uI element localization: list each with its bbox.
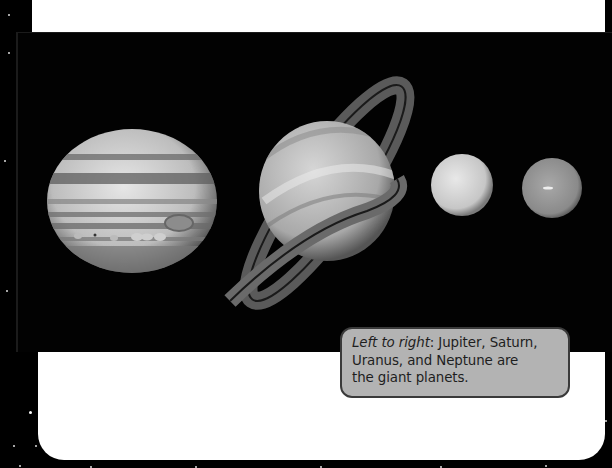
page-card-top bbox=[32, 0, 605, 32]
caption-lead: Left to right bbox=[352, 335, 430, 350]
jupiter-planet-icon bbox=[42, 129, 232, 276]
caption-line-3: the giant planets. bbox=[352, 369, 568, 387]
neptune-planet-icon bbox=[522, 158, 582, 218]
caption-line-1: Left to right: Jupiter, Saturn, bbox=[352, 334, 568, 352]
figure-caption: Left to right: Jupiter, Saturn, Uranus, … bbox=[340, 327, 570, 398]
planets-photo bbox=[16, 32, 612, 352]
saturn-planet-icon bbox=[228, 69, 426, 316]
caption-line-2: Uranus, and Neptune are bbox=[352, 352, 568, 370]
uranus-planet-icon bbox=[431, 154, 493, 216]
